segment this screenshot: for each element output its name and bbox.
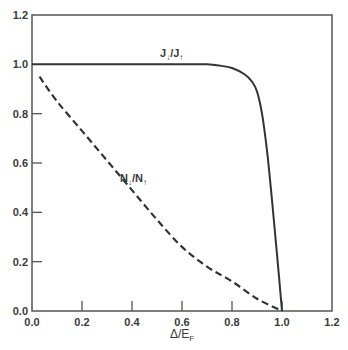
- y-tick-label: 1.2: [13, 9, 28, 21]
- y-tick-label: 0.6: [13, 157, 28, 169]
- x-axis-ticks: 0.00.20.40.60.81.01.2: [24, 301, 339, 328]
- chart: 0.00.20.40.60.81.01.2 0.00.20.40.60.81.0…: [0, 0, 348, 350]
- y-tick-label: 1.0: [13, 58, 28, 70]
- j-ratio-label: J↓/J↑: [160, 47, 183, 62]
- n-ratio-label: N↓/N↑: [120, 172, 147, 187]
- x-axis-title: Δ/EF: [170, 327, 194, 343]
- x-tick-label: 0.2: [74, 316, 89, 328]
- y-tick-label: 0.4: [13, 206, 29, 218]
- x-tick-label: 1.2: [324, 316, 339, 328]
- y-tick-label: 0.8: [13, 108, 28, 120]
- x-tick-label: 0.4: [124, 316, 140, 328]
- x-tick-label: 1.0: [274, 316, 289, 328]
- j-ratio-line: [32, 64, 282, 311]
- y-tick-label: 0.2: [13, 256, 28, 268]
- n-ratio-dashed-line: [40, 77, 283, 311]
- x-tick-label: 0.8: [224, 316, 239, 328]
- x-tick-label: 0.0: [24, 316, 39, 328]
